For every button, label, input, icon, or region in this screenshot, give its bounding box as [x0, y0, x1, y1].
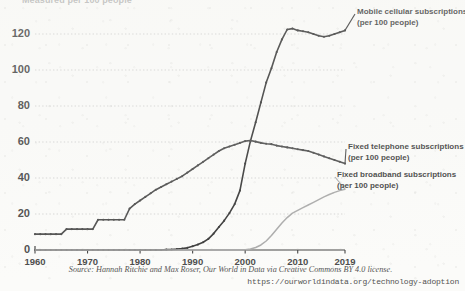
legend-item-mobile-cellular: Mobile cellular subscriptions (per 100 p…: [357, 7, 465, 28]
legend-label-line2: (per 100 people): [337, 181, 456, 192]
legend-label-line1: Fixed telephone subscriptions: [348, 142, 464, 153]
legend-label-line2: (per 100 people): [357, 18, 465, 29]
legend-label-line1: Mobile cellular subscriptions: [357, 7, 465, 18]
y-tick-label: 120: [0, 27, 30, 39]
source-attribution: Source: Hannah Ritchie and Max Roser, Ou…: [0, 265, 461, 274]
gridlines: [35, 34, 345, 214]
y-tick-label: 100: [0, 63, 30, 75]
y-tick-label: 0: [0, 243, 30, 255]
y-tick-label: 20: [0, 207, 30, 219]
legend-label-line1: Fixed broadband subscriptions: [337, 170, 456, 181]
y-tick-label: 80: [0, 99, 30, 111]
data-series-group: [34, 28, 346, 252]
y-tick-label: 40: [0, 171, 30, 183]
legend-item-fixed-broadband: Fixed broadband subscriptions (per 100 p…: [337, 170, 456, 191]
y-tick-label: 60: [0, 135, 30, 147]
legend-label-line2: (per 100 people): [348, 153, 464, 164]
legend-item-fixed-telephone: Fixed telephone subscriptions (per 100 p…: [348, 142, 464, 163]
source-url: https://ourworldindata.org/technology-ad…: [247, 277, 459, 286]
